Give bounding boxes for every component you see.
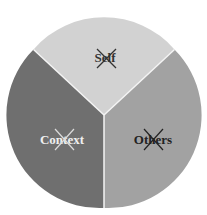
pie-chart: Self Others Context: [0, 0, 207, 215]
label-context: Context: [40, 132, 85, 147]
